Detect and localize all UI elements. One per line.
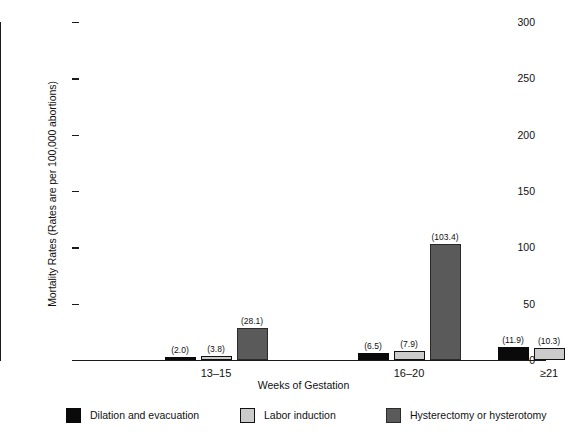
legend-item-li[interactable]: Labor induction <box>240 404 336 426</box>
bar-hyst-0 <box>237 328 268 360</box>
bar-value-label: (103.4) <box>432 232 459 242</box>
bar-value-label: (6.5) <box>364 341 381 351</box>
y-axis-tick <box>72 191 79 192</box>
y-axis-line <box>0 22 1 361</box>
mortality-rate-bar-chart: Mortality Rates (Rates are per 100,000 a… <box>0 0 569 441</box>
x-axis-line <box>79 360 546 361</box>
bar-dne-0 <box>165 357 196 360</box>
y-axis-tick-label: 250 <box>517 72 535 84</box>
y-axis-tick-label: 50 <box>523 298 535 310</box>
y-axis-tick <box>72 78 79 79</box>
plot-area: 050100150200250300(2.0)(3.8)(28.1)(6.5)(… <box>79 22 546 360</box>
y-axis-title: Mortality Rates (Rates are per 100,000 a… <box>46 29 58 359</box>
legend-item-hyst[interactable]: Hysterectomy or hysterotomy <box>386 404 547 426</box>
bar-li-2 <box>534 348 565 360</box>
y-axis-tick <box>72 304 79 305</box>
y-axis-tick-label: 200 <box>517 129 535 141</box>
x-axis-group-label: 16–20 <box>394 367 425 379</box>
chart-legend: Dilation and evacuationLabor inductionHy… <box>0 404 569 430</box>
y-axis-tick <box>72 360 79 361</box>
y-axis-tick <box>72 135 79 136</box>
y-axis-tick-label: 100 <box>517 241 535 253</box>
bar-value-label: (3.8) <box>207 344 224 354</box>
bar-value-label: (2.0) <box>171 345 188 355</box>
legend-label: Labor induction <box>264 409 336 421</box>
legend-label: Hysterectomy or hysterotomy <box>410 409 547 421</box>
legend-item-dne[interactable]: Dilation and evacuation <box>66 404 199 426</box>
bar-value-label: (10.3) <box>538 336 560 346</box>
y-axis-tick-label: 150 <box>517 185 535 197</box>
y-axis-tick <box>72 247 79 248</box>
legend-swatch-icon <box>240 408 255 423</box>
bar-li-0 <box>201 356 232 360</box>
x-axis-title-text: Weeks of Gestation <box>258 379 349 391</box>
bar-dne-2 <box>498 347 529 360</box>
legend-swatch-icon <box>386 408 401 423</box>
y-axis-tick-label: 300 <box>517 16 535 28</box>
bar-value-label: (28.1) <box>241 316 263 326</box>
bar-li-1 <box>394 351 425 360</box>
x-axis-title: Weeks of Gestation <box>0 379 569 391</box>
bar-dne-1 <box>358 353 389 360</box>
bar-hyst-1 <box>430 244 461 360</box>
x-axis-group-label: 13–15 <box>201 367 232 379</box>
bar-value-label: (7.9) <box>400 339 417 349</box>
y-axis-tick <box>72 22 79 23</box>
legend-swatch-icon <box>66 408 81 423</box>
bar-value-label: (11.9) <box>502 335 524 345</box>
legend-label: Dilation and evacuation <box>90 409 199 421</box>
x-axis-group-label: ≥21 <box>540 367 558 379</box>
